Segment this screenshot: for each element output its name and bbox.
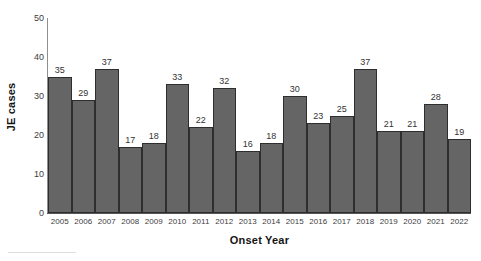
bar-rect[interactable] bbox=[72, 100, 96, 213]
bar-group[interactable]: 29 bbox=[72, 18, 96, 213]
bar-group[interactable]: 35 bbox=[48, 18, 72, 213]
y-axis-title: JE cases bbox=[0, 0, 22, 213]
x-axis-tick-labels: 2005200620072008200920102011201220132014… bbox=[48, 216, 471, 230]
bar-rect[interactable] bbox=[236, 151, 260, 213]
x-axis-tick-label: 2011 bbox=[189, 216, 213, 227]
x-axis-tick-label: 2015 bbox=[283, 216, 307, 227]
x-axis-tick-label: 2016 bbox=[307, 216, 331, 227]
x-axis-tick-label: 2010 bbox=[166, 216, 190, 227]
bar-rect[interactable] bbox=[330, 116, 354, 214]
bar-value-label: 18 bbox=[149, 131, 159, 141]
x-axis-line bbox=[47, 213, 471, 214]
x-axis-tick-label: 2019 bbox=[377, 216, 401, 227]
bar-rect[interactable] bbox=[307, 123, 331, 213]
bar-value-label: 35 bbox=[55, 65, 65, 75]
bar-group[interactable]: 18 bbox=[142, 18, 166, 213]
x-axis-tick-label: 2014 bbox=[260, 216, 284, 227]
page-rule-divider bbox=[8, 252, 76, 253]
bar-rect[interactable] bbox=[283, 96, 307, 213]
bar-rect[interactable] bbox=[377, 131, 401, 213]
x-axis-tick-label: 2020 bbox=[401, 216, 425, 227]
bar-rect[interactable] bbox=[95, 69, 119, 213]
x-axis-tick-label: 2018 bbox=[354, 216, 378, 227]
bar-value-label: 19 bbox=[454, 127, 464, 137]
bar-group[interactable]: 28 bbox=[424, 18, 448, 213]
x-axis-title: Onset Year bbox=[48, 234, 471, 246]
bar-value-label: 29 bbox=[78, 88, 88, 98]
y-axis-tick-labels: 01020304050 bbox=[20, 0, 44, 261]
bar-group[interactable]: 21 bbox=[401, 18, 425, 213]
bar-group[interactable]: 37 bbox=[354, 18, 378, 213]
y-axis-tick-label: 20 bbox=[20, 130, 44, 140]
bar-rect[interactable] bbox=[119, 147, 143, 213]
bar-rect[interactable] bbox=[260, 143, 284, 213]
bar-rect[interactable] bbox=[166, 84, 190, 213]
x-axis-tick-label: 2009 bbox=[142, 216, 166, 227]
bar-group[interactable]: 21 bbox=[377, 18, 401, 213]
y-axis-title-label: JE cases bbox=[5, 82, 17, 131]
bar-rect[interactable] bbox=[424, 104, 448, 213]
bar-group[interactable]: 25 bbox=[330, 18, 354, 213]
y-axis-tick-label: 40 bbox=[20, 52, 44, 62]
bar-value-label: 18 bbox=[266, 131, 276, 141]
bar-value-label: 37 bbox=[102, 57, 112, 67]
bar-value-label: 37 bbox=[360, 57, 370, 67]
y-axis-tick-label: 50 bbox=[20, 13, 44, 23]
bar-value-label: 32 bbox=[219, 76, 229, 86]
y-axis-tick-label: 30 bbox=[20, 91, 44, 101]
bar-group[interactable]: 19 bbox=[448, 18, 472, 213]
bar-group[interactable]: 30 bbox=[283, 18, 307, 213]
x-axis-tick-label: 2017 bbox=[330, 216, 354, 227]
bar-group[interactable]: 16 bbox=[236, 18, 260, 213]
bar-value-label: 22 bbox=[196, 115, 206, 125]
bar-group[interactable]: 17 bbox=[119, 18, 143, 213]
bar-value-label: 21 bbox=[384, 119, 394, 129]
x-axis-tick-label: 2008 bbox=[119, 216, 143, 227]
bar-group[interactable]: 33 bbox=[166, 18, 190, 213]
bar-group[interactable]: 18 bbox=[260, 18, 284, 213]
bar-value-label: 21 bbox=[407, 119, 417, 129]
bar-value-label: 28 bbox=[431, 92, 441, 102]
bar-value-label: 33 bbox=[172, 72, 182, 82]
je-cases-bar-chart: JE cases 01020304050 3529371718332232161… bbox=[0, 0, 481, 261]
bar-rect[interactable] bbox=[213, 88, 237, 213]
bar-group[interactable]: 23 bbox=[307, 18, 331, 213]
bar-rect[interactable] bbox=[142, 143, 166, 213]
plot-area: 352937171833223216183023253721212819 bbox=[48, 18, 471, 213]
bar-rect[interactable] bbox=[401, 131, 425, 213]
bar-group[interactable]: 32 bbox=[213, 18, 237, 213]
bar-value-label: 25 bbox=[337, 104, 347, 114]
y-axis-tick-label: 10 bbox=[20, 169, 44, 179]
x-axis-tick-label: 2005 bbox=[48, 216, 72, 227]
bar-rect[interactable] bbox=[354, 69, 378, 213]
x-axis-tick-label: 2012 bbox=[213, 216, 237, 227]
x-axis-tick-label: 2006 bbox=[72, 216, 96, 227]
bar-group[interactable]: 22 bbox=[189, 18, 213, 213]
bar-value-label: 23 bbox=[313, 111, 323, 121]
x-axis-tick-label: 2021 bbox=[424, 216, 448, 227]
bar-rect[interactable] bbox=[189, 127, 213, 213]
bar-group[interactable]: 37 bbox=[95, 18, 119, 213]
bar-value-label: 30 bbox=[290, 84, 300, 94]
bar-value-label: 17 bbox=[125, 135, 135, 145]
x-axis-tick-label: 2022 bbox=[448, 216, 472, 227]
bar-rect[interactable] bbox=[448, 139, 472, 213]
x-axis-tick-label: 2013 bbox=[236, 216, 260, 227]
y-axis-tick-label: 0 bbox=[20, 208, 44, 218]
x-axis-tick-label: 2007 bbox=[95, 216, 119, 227]
bar-rect[interactable] bbox=[48, 77, 72, 214]
bar-value-label: 16 bbox=[243, 139, 253, 149]
